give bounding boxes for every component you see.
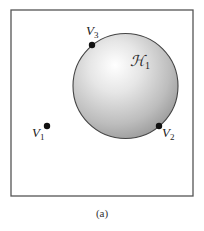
figure-caption: (a) [96,207,109,220]
vertex-v1-dot [44,123,50,129]
region-h1-label-sub: 1 [145,60,150,71]
vertex-v3-dot [89,42,95,48]
diagram-figure: ℋ1 V3 V2 V1 (a) [0,0,204,231]
region-h1-disk [73,34,178,139]
